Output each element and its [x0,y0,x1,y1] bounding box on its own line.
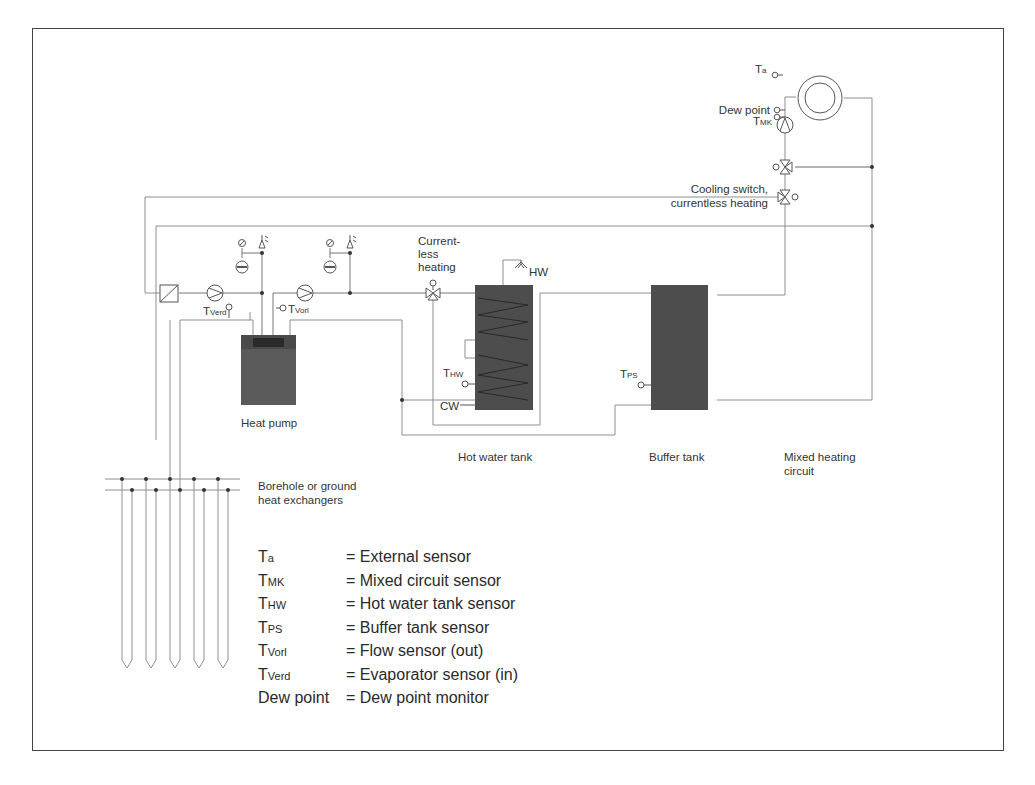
legend-symbol: TVorl [258,640,346,664]
legend-row: THW = Hot water tank sensor [258,593,518,617]
borehole-label-2: heat exchangers [258,493,343,507]
borehole-label-1: Borehole or ground [258,479,356,493]
safety-valve-icon [259,235,268,248]
legend-definition: = Buffer tank sensor [346,617,489,641]
ta-label: Ta [755,62,766,78]
pump-icon [297,285,313,301]
heat-pump-unit [241,335,296,405]
expansion-vessel-icon [324,261,336,273]
legend: Ta = External sensor TMK = Mixed circuit… [258,546,518,711]
legend-row: TMK = Mixed circuit sensor [258,570,518,594]
currentless-label-2: less [418,247,438,261]
plate-heat-exchanger-icon [160,285,178,302]
legend-row: TVorl = Flow sensor (out) [258,640,518,664]
heat-pump-label: Heat pump [241,416,297,430]
pump-icon [207,285,223,301]
tmk-label: TMK [730,114,772,130]
three-way-valve-icon [778,190,798,204]
mixed-heating-circuit-label-2: circuit [784,464,814,478]
cooling-switch-label-2: currentless heating [640,196,768,210]
pump-icon [777,117,793,133]
hot-water-tap-icon [515,260,527,268]
cooling-switch-label-1: Cooling switch, [640,182,768,196]
legend-definition: = Flow sensor (out) [346,640,483,664]
legend-symbol: Ta [258,546,346,570]
legend-definition: = Dew point monitor [346,687,489,711]
caption-area-cropped [0,760,1035,785]
tps-label: TPS [620,367,638,383]
three-way-valve-icon [773,160,792,174]
legend-row: TVerd = Evaporator sensor (in) [258,664,518,688]
legend-symbol: THW [258,593,346,617]
pressure-gauge-icon [327,240,334,247]
legend-row: TPS = Buffer tank sensor [258,617,518,641]
pressure-gauge-icon [239,240,246,247]
buffer-tank-label: Buffer tank [649,450,704,464]
cw-label: CW [440,399,459,413]
legend-definition: = Mixed circuit sensor [346,570,501,594]
hot-water-tank-label: Hot water tank [458,450,532,464]
currentless-label-1: Current- [418,234,460,248]
mixed-heating-circuit-label-1: Mixed heating [784,450,856,464]
tvorl-label: TVorl [288,302,309,318]
legend-definition: = External sensor [346,546,471,570]
hot-water-tank [475,285,533,410]
legend-row: Dew point = Dew point monitor [258,687,518,711]
hw-label: HW [529,265,548,279]
three-way-valve-icon [426,280,440,300]
legend-symbol: Dew point [258,687,346,711]
expansion-vessel-icon [236,261,248,273]
heating-emitter-icon [798,76,842,120]
buffer-tank [651,285,708,410]
thw-label: THW [443,366,463,382]
legend-symbol: TMK [258,570,346,594]
legend-definition: = Hot water tank sensor [346,593,515,617]
legend-row: Ta = External sensor [258,546,518,570]
currentless-label-3: heating [418,260,456,274]
safety-valve-icon [347,235,356,248]
tverd-label: TVerd [203,304,227,320]
legend-symbol: TPS [258,617,346,641]
legend-symbol: TVerd [258,664,346,688]
legend-definition: = Evaporator sensor (in) [346,664,518,688]
